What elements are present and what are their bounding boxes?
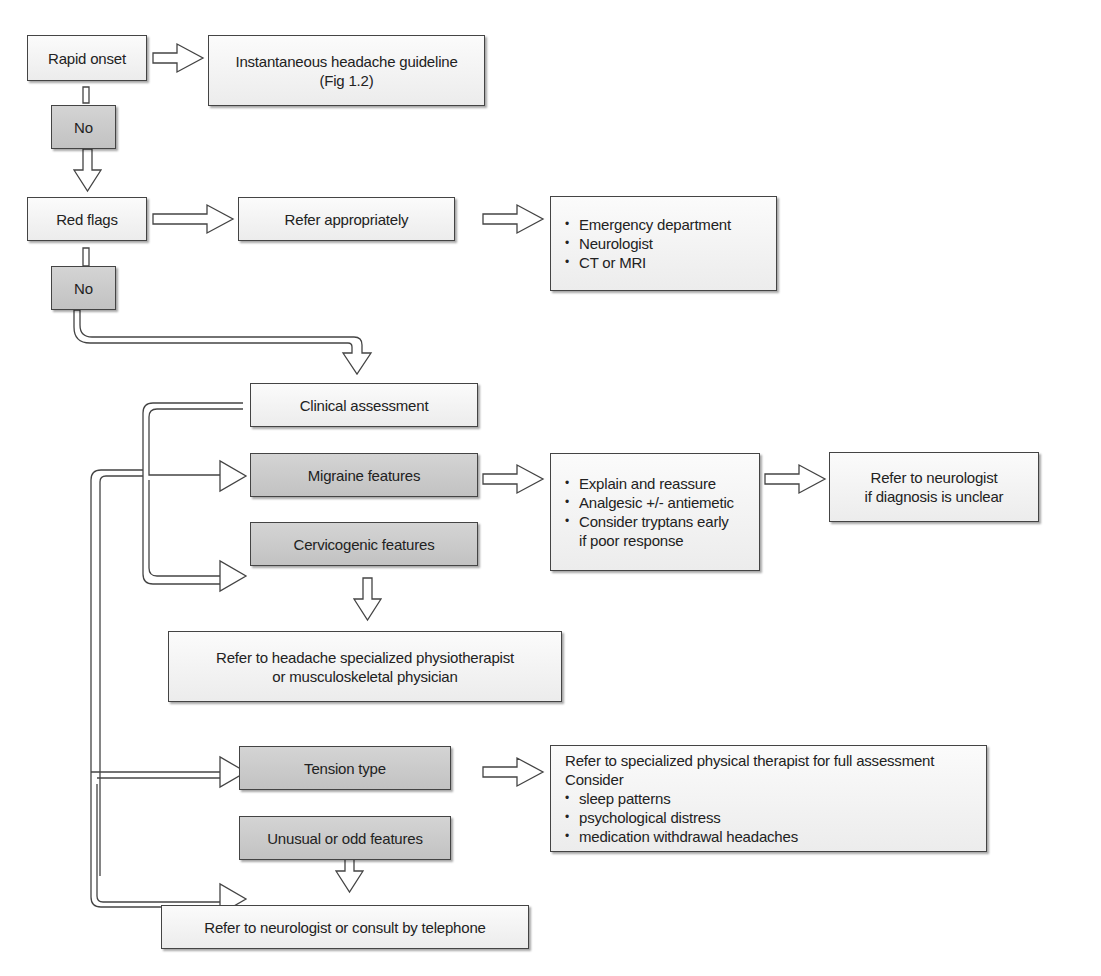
list-item: if poor response bbox=[565, 531, 734, 550]
node-label: Cervicogenic features bbox=[294, 535, 435, 554]
arrow-right-icon bbox=[153, 44, 203, 72]
node-clinical-assessment: Clinical assessment bbox=[250, 383, 478, 427]
list-item: sleep patterns bbox=[565, 789, 798, 808]
node-instantaneous-guideline: Instantaneous headache guideline (Fig 1.… bbox=[208, 35, 485, 106]
node-label: Refer to neurologist bbox=[871, 468, 998, 487]
node-no-1: No bbox=[51, 105, 116, 149]
node-label: Refer to specialized physical therapist … bbox=[565, 751, 934, 770]
node-label: Refer to headache specialized physiother… bbox=[216, 648, 514, 667]
node-rapid-onset: Rapid onset bbox=[27, 35, 147, 81]
node-refer-neurologist-telephone: Refer to neurologist or consult by telep… bbox=[161, 905, 529, 949]
list-item: psychological distress bbox=[565, 808, 798, 827]
node-refer-appropriately: Refer appropriately bbox=[238, 197, 455, 241]
list-item: CT or MRI bbox=[565, 253, 731, 272]
list-item: medication withdrawal headaches bbox=[565, 827, 798, 846]
node-red-flags: Red flags bbox=[27, 197, 147, 241]
node-refer-neurologist-unclear: Refer to neurologist if diagnosis is unc… bbox=[829, 452, 1039, 522]
node-label: Rapid onset bbox=[48, 49, 126, 68]
arrow-right-icon bbox=[153, 205, 233, 233]
list-item: Explain and reassure bbox=[565, 474, 734, 493]
node-label: Refer appropriately bbox=[285, 210, 409, 229]
arrow-right-icon bbox=[483, 465, 543, 493]
arrow-down-icon bbox=[74, 149, 101, 191]
node-label: No bbox=[74, 118, 93, 137]
list-item: Emergency department bbox=[565, 215, 731, 234]
arrow-down-icon bbox=[354, 578, 381, 620]
node-label: Migraine features bbox=[308, 466, 421, 485]
node-label: Clinical assessment bbox=[300, 396, 429, 415]
node-cervicogenic-features: Cervicogenic features bbox=[250, 522, 478, 566]
node-label: Red flags bbox=[56, 210, 118, 229]
node-migraine-management: Explain and reassure Analgesic +/- antie… bbox=[550, 453, 760, 571]
node-referral-options: Emergency department Neurologist CT or M… bbox=[550, 196, 777, 291]
arrow-right-icon bbox=[483, 758, 543, 786]
node-no-2: No bbox=[51, 266, 116, 310]
arrow-right-icon bbox=[483, 205, 543, 233]
referral-options-list: Emergency department Neurologist CT or M… bbox=[565, 215, 731, 272]
node-label: Unusual or odd features bbox=[267, 829, 423, 848]
node-label: or musculoskeletal physician bbox=[272, 667, 457, 686]
tension-considerations-list: sleep patterns psychological distress me… bbox=[565, 789, 798, 846]
migraine-management-list: Explain and reassure Analgesic +/- antie… bbox=[565, 474, 734, 550]
node-label: No bbox=[74, 279, 93, 298]
node-label: Instantaneous headache guideline bbox=[235, 52, 457, 71]
list-item: Analgesic +/- antiemetic bbox=[565, 493, 734, 512]
list-item: Neurologist bbox=[565, 234, 731, 253]
node-label: Consider bbox=[565, 770, 623, 789]
arrow-curved-icon bbox=[74, 310, 371, 374]
node-migraine-features: Migraine features bbox=[250, 453, 478, 497]
node-label: Tension type bbox=[304, 759, 386, 778]
node-label: (Fig 1.2) bbox=[319, 71, 373, 90]
node-tension-type: Tension type bbox=[239, 746, 451, 790]
arrow-right-icon bbox=[765, 465, 825, 493]
node-label: if diagnosis is unclear bbox=[865, 487, 1004, 506]
node-label: Refer to neurologist or consult by telep… bbox=[204, 918, 485, 937]
node-refer-physiotherapist: Refer to headache specialized physiother… bbox=[168, 631, 562, 702]
node-unusual-features: Unusual or odd features bbox=[239, 816, 451, 860]
node-tension-management: Refer to specialized physical therapist … bbox=[550, 745, 987, 852]
list-item: Consider tryptans early bbox=[565, 512, 734, 531]
